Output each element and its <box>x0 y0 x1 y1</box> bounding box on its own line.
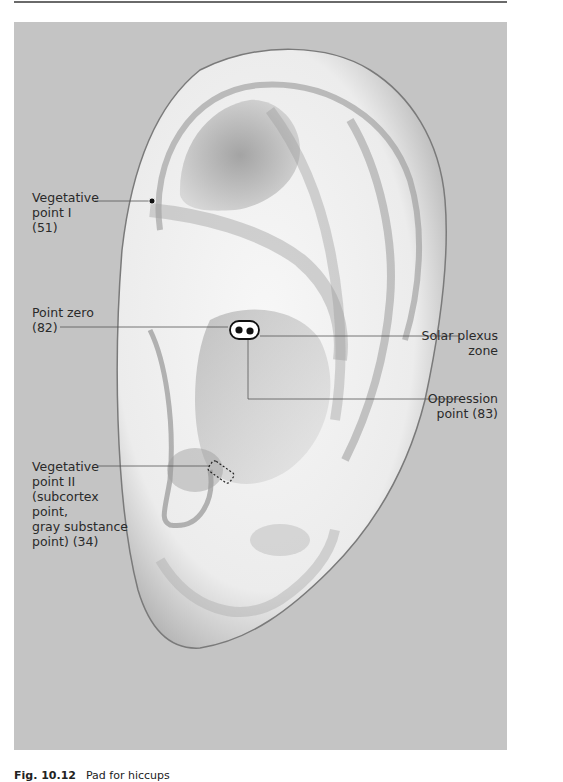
label-vegetative-point-2: Vegetative point II (subcortex point, gr… <box>32 459 128 549</box>
caption-text: Pad for hiccups <box>86 769 170 782</box>
point-zero-marker <box>230 321 259 339</box>
label-point-zero: Point zero (82) <box>32 305 94 335</box>
figure-number: Fig. 10.12 <box>14 769 76 782</box>
label-oppression-point: Oppression point (83) <box>428 391 498 421</box>
figure-caption: Fig. 10.12Pad for hiccups <box>14 769 170 782</box>
label-vegetative-point-1: Vegetative point I (51) <box>32 190 99 235</box>
vegetative-point-1-marker <box>149 198 155 204</box>
label-solar-plexus-zone: Solar plexus zone <box>421 328 498 358</box>
